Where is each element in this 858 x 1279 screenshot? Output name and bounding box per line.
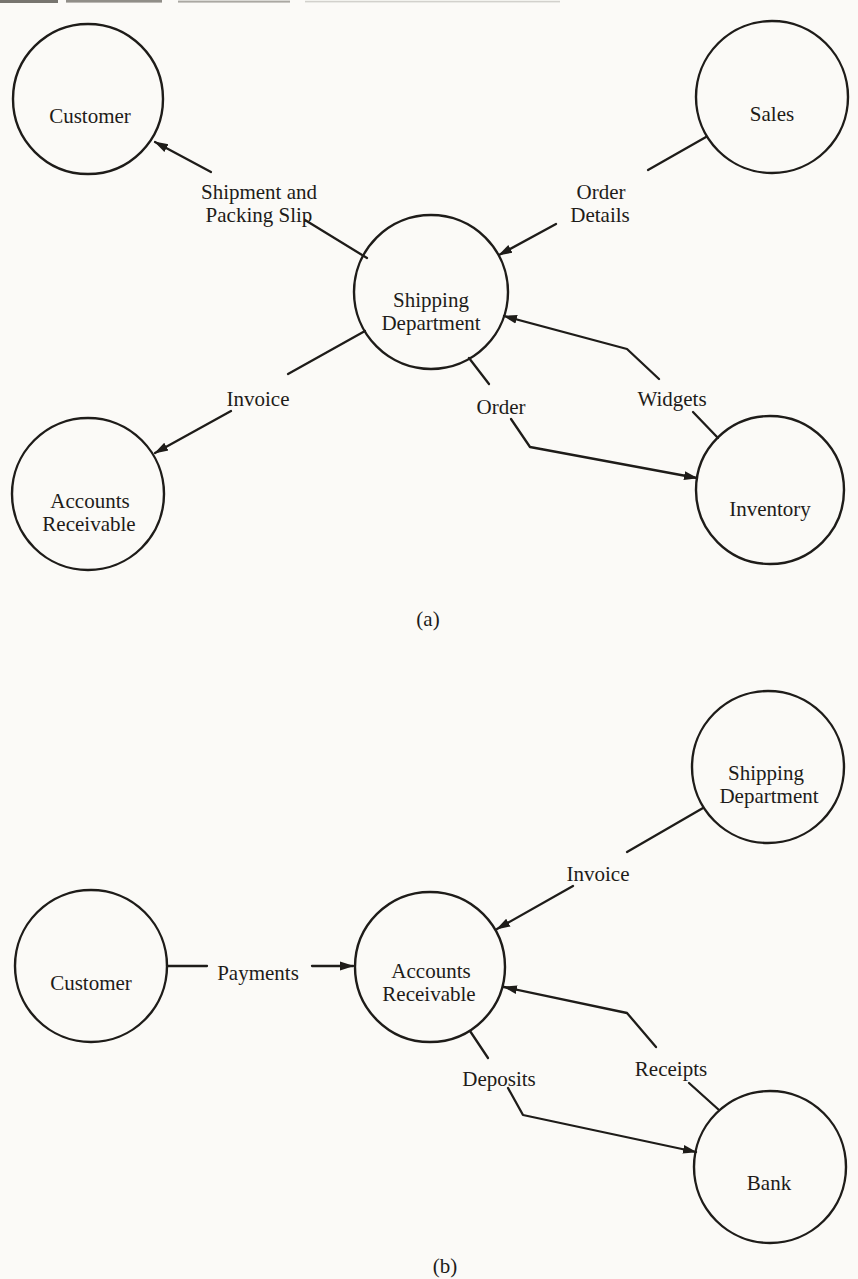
node-accounts-receivable-a-label-line1: Accounts [50, 489, 129, 513]
flow-deposits-line-from-accounts-receivable [470, 1031, 488, 1058]
flow-deposits-label: Deposits [462, 1067, 536, 1091]
node-sales-label: Sales [750, 102, 794, 126]
node-customer-a-label: Customer [49, 104, 131, 128]
flow-widgets-label: Widgets [637, 387, 706, 411]
node-accounts-receivable-a-label-line2: Receivable [42, 512, 135, 536]
diagram-a: Customer Sales Shipping Department Accou… [12, 21, 848, 631]
flow-receipts-label: Receipts [635, 1057, 707, 1081]
flow-deposits-arrow-to-bank [508, 1088, 696, 1152]
flow-widgets-arrow-to-shipping [504, 316, 659, 379]
flow-invoice-b-arrow-to-accounts-receivable [497, 886, 573, 929]
caption-b: (b) [433, 1254, 458, 1278]
flow-invoice-a-label: Invoice [227, 387, 290, 411]
node-bank-label: Bank [747, 1171, 792, 1195]
flow-invoice-a-line-from-shipping [288, 331, 365, 374]
flow-invoice-b-line-from-shipping [627, 808, 703, 852]
flow-widgets-line-from-inventory [693, 412, 718, 438]
node-shipping-department-b-label-line1: Shipping [728, 761, 804, 785]
node-customer-b-circle [15, 890, 167, 1042]
node-shipping-department-a-label-line1: Shipping [393, 288, 469, 312]
flow-order-label: Order [477, 395, 526, 419]
flow-receipts-line-from-bank [689, 1083, 719, 1110]
diagram-b: Shipping Department Customer Accounts Re… [15, 691, 846, 1278]
flow-invoice-b-label: Invoice [567, 862, 630, 886]
flow-receipts-arrow-to-accounts-receivable [504, 987, 656, 1047]
flow-order-arrow-to-inventory [511, 419, 697, 478]
node-shipping-department-b-label-line2: Department [719, 784, 818, 808]
node-shipping-department-a-label-line2: Department [381, 311, 480, 335]
caption-a: (a) [416, 607, 439, 631]
node-customer-a-circle [13, 24, 163, 174]
flow-shipment-arrow-to-customer [155, 142, 211, 172]
scan-artifact-top-edge [0, 0, 560, 3]
node-customer-b-label: Customer [50, 971, 132, 995]
flow-shipment-line-from-shipping [305, 220, 367, 258]
flow-order-details-arrow-to-shipping [499, 224, 556, 255]
flow-shipment-label-line1: Shipment and [201, 180, 318, 204]
flow-order-details-line-from-sales [648, 137, 706, 170]
flow-order-details-label-line2: Details [570, 203, 629, 227]
flow-order-line-from-shipping [469, 358, 489, 384]
node-sales-circle [696, 21, 848, 173]
dfd-figure: Customer Sales Shipping Department Accou… [0, 0, 858, 1279]
flow-invoice-a-arrow-to-accounts-receivable [155, 411, 231, 453]
node-accounts-receivable-b-label-line2: Receivable [382, 982, 475, 1006]
flow-payments-label: Payments [217, 961, 299, 985]
node-inventory-label: Inventory [729, 497, 811, 521]
scanned-figure-page: Customer Sales Shipping Department Accou… [0, 0, 858, 1279]
flow-order-details-label-line1: Order [577, 180, 626, 204]
node-bank-circle [694, 1091, 846, 1243]
node-accounts-receivable-b-label-line1: Accounts [391, 959, 470, 983]
flow-shipment-label-line2: Packing Slip [206, 203, 313, 227]
